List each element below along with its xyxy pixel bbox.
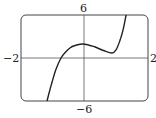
x-min-label: −2 [3, 53, 19, 64]
y-min-label: −6 [76, 104, 92, 115]
graph-plot [0, 0, 156, 118]
x-max-label: 2 [150, 53, 156, 64]
y-max-label: 6 [80, 3, 87, 14]
